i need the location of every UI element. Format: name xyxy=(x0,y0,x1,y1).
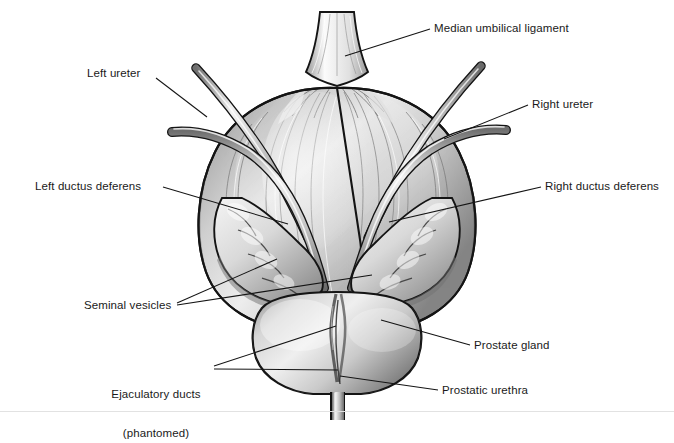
label-left-ductus-deferens: Left ductus deferens xyxy=(35,180,141,193)
prostate-gland-structure xyxy=(246,292,428,420)
label-ejaculatory-ducts-line2: (phantomed) xyxy=(96,427,216,440)
leader-left-ureter xyxy=(156,78,207,117)
label-left-ureter: Left ureter xyxy=(87,67,141,80)
label-right-ureter: Right ureter xyxy=(532,98,593,111)
label-ejaculatory-ducts-line1: Ejaculatory ducts xyxy=(96,388,216,401)
label-ejaculatory-ducts: Ejaculatory ducts (phantomed) xyxy=(96,362,216,443)
median-umbilical-ligament-structure xyxy=(306,12,368,86)
label-prostate-gland: Prostate gland xyxy=(474,339,550,352)
label-prostatic-urethra: Prostatic urethra xyxy=(442,384,528,397)
label-right-ductus-deferens: Right ductus deferens xyxy=(545,180,659,193)
bottom-divider xyxy=(0,411,674,412)
prostatic-urethra-structure xyxy=(331,392,344,420)
label-median-umbilical-ligament: Median umbilical ligament xyxy=(434,22,569,35)
label-seminal-vesicles: Seminal vesicles xyxy=(84,299,171,312)
